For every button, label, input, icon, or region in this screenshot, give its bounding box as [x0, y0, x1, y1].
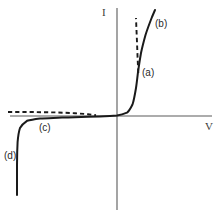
- ideal-forward-asymptote-dashed-line: [136, 18, 138, 73]
- iv-curve-plot: [0, 0, 223, 219]
- annotation-label-d: (d): [4, 151, 16, 161]
- ideal-reverse-saturation-dashed-line: [8, 112, 96, 115]
- diode-iv-solid-curve: [17, 10, 155, 195]
- annotation-label-b: (b): [155, 19, 167, 29]
- annotation-label-c: (c): [39, 123, 51, 133]
- iv-characteristic-figure: I V (a) (b) (c) (d): [0, 0, 223, 219]
- voltage-axis-label: V: [205, 121, 213, 132]
- annotation-label-a: (a): [142, 68, 154, 78]
- current-axis-label: I: [102, 7, 106, 18]
